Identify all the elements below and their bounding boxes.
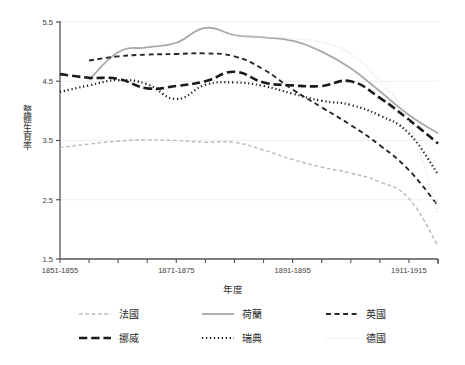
y-tick-label: 3.5 (42, 136, 53, 145)
series-line-英國 (89, 53, 438, 205)
legend-label: 荷蘭 (242, 306, 262, 321)
y-tick-label: 4.5 (42, 77, 53, 86)
chart-legend: 法國荷蘭英國挪威瑞典德國 (78, 306, 448, 345)
x-axis-tick-labels: 1851-18551871-18751891-18951911-1915 (42, 266, 427, 275)
dashed-light-line-icon (78, 309, 112, 319)
y-tick-label: 2.5 (42, 196, 53, 205)
legend-label: 德國 (366, 330, 386, 345)
legend-item-荷蘭[interactable]: 荷蘭 (201, 306, 324, 321)
legend-label: 法國 (119, 306, 139, 321)
series-line-瑞典 (60, 80, 438, 174)
x-tick-label: 1911-1915 (391, 266, 427, 275)
legend-item-英國[interactable]: 英國 (325, 306, 448, 321)
dotted-black-line-icon (201, 333, 235, 343)
plot-area: 1.52.53.54.55.5 1851-18551871-18751891-1… (0, 0, 465, 300)
x-tick-label: 1871-1875 (158, 266, 194, 275)
fertility-rate-line-chart: 1.52.53.54.55.5 1851-18551871-18751891-1… (0, 0, 465, 365)
data-series-group (60, 28, 438, 246)
y-tick-label: 5.5 (42, 18, 53, 27)
legend-label: 英國 (366, 306, 386, 321)
series-line-荷蘭 (89, 28, 438, 134)
chart-svg: 1.52.53.54.55.5 1851-18551871-18751891-1… (0, 0, 465, 300)
x-tick-label: 1851-1855 (42, 266, 78, 275)
legend-label: 挪威 (119, 330, 139, 345)
series-line-法國 (60, 140, 438, 246)
legend-item-挪威[interactable]: 挪威 (78, 330, 201, 345)
legend-item-法國[interactable]: 法國 (78, 306, 201, 321)
y-axis-title: 整體生育率 (16, 105, 32, 150)
dashed-dark-line-icon (325, 309, 359, 319)
series-line-德國 (234, 35, 438, 213)
legend-label: 瑞典 (242, 330, 262, 345)
legend-item-德國[interactable]: 德國 (325, 330, 448, 345)
long-dashed-black-line-icon (78, 333, 112, 343)
y-tick-label: 1.5 (42, 255, 53, 264)
legend-item-瑞典[interactable]: 瑞典 (201, 330, 324, 345)
dotted-light-line-icon (325, 333, 359, 343)
solid-gray-line-icon (201, 309, 235, 319)
x-tick-label: 1891-1895 (274, 266, 310, 275)
x-axis-title: 年度 (0, 282, 465, 296)
x-axis-ticks (60, 259, 438, 264)
y-axis-tick-labels: 1.52.53.54.55.5 (42, 18, 60, 264)
